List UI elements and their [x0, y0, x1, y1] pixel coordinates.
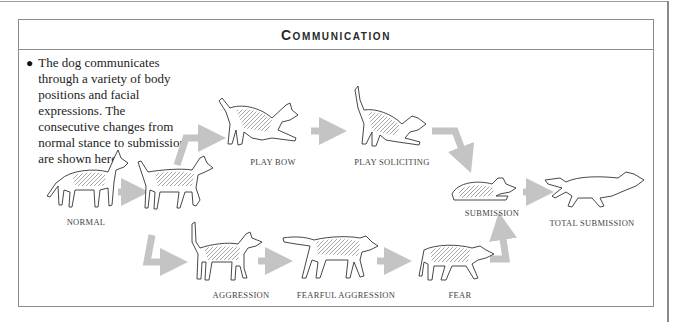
label-fear: FEAR — [449, 290, 472, 300]
label-normal: NORMAL — [67, 217, 106, 227]
dog-aggression-illustration — [192, 222, 262, 280]
label-total-submission: TOTAL SUBMISSION — [549, 218, 634, 228]
dog-total-submission-illustration — [545, 172, 644, 207]
dog-fear-illustration — [419, 245, 494, 280]
dog-submission-illustration — [452, 178, 516, 200]
arrow-soliciting-to-submission — [432, 131, 466, 160]
label-submission: SUBMISSION — [465, 208, 520, 218]
dog-fearful-aggression-illustration — [283, 236, 378, 278]
label-play-soliciting: PLAY SOLICITING — [354, 157, 429, 167]
communication-diagram — [0, 0, 677, 322]
dog-play-bow-illustration — [219, 98, 298, 145]
label-aggression: AGGRESSION — [213, 290, 270, 300]
dog-play-soliciting-illustration — [355, 86, 426, 146]
arrow-up-to-play-bow — [177, 138, 212, 165]
arrow-down-to-aggression — [147, 235, 174, 262]
dog-normal-illustration — [47, 150, 128, 207]
label-play-bow: PLAY BOW — [250, 157, 295, 167]
label-fearful-aggression: FEARFUL AGGRESSION — [297, 290, 395, 300]
